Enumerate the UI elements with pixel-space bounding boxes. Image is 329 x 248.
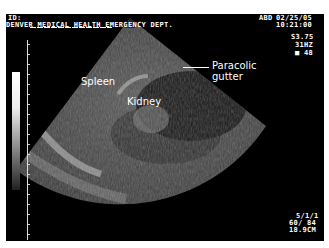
ultrasound-sector-image <box>6 14 324 241</box>
ruler-tick <box>28 64 30 65</box>
depth-ruler <box>27 40 28 240</box>
ruler-tick <box>28 174 30 175</box>
ruler-tick <box>28 184 30 185</box>
ruler-tick <box>28 164 30 165</box>
exam-preset: ABD <box>259 15 273 22</box>
ruler-tick <box>28 234 30 235</box>
ruler-tick <box>28 54 30 55</box>
ruler-tick <box>28 44 30 45</box>
ruler-tick <box>28 134 30 135</box>
header-underline <box>30 27 112 28</box>
ruler-tick <box>28 214 30 215</box>
gain-label: ■ 48 <box>295 50 313 57</box>
grayscale-bar <box>12 72 20 190</box>
ruler-tick <box>28 144 30 145</box>
ruler-tick <box>28 94 30 95</box>
kidney-label: Kidney <box>127 96 161 107</box>
ruler-tick <box>28 124 30 125</box>
ruler-tick <box>28 224 30 225</box>
spleen-label: Spleen <box>81 76 115 87</box>
ruler-tick <box>28 104 30 105</box>
paracolic-label-line2: gutter <box>212 71 243 82</box>
depth-label: 18.9CM <box>289 227 316 234</box>
ruler-tick <box>28 194 30 195</box>
ruler-tick <box>28 74 30 75</box>
probe-label: S3.75 <box>291 34 314 41</box>
ultrasound-display: ID: DENVER MEDICAL HEALTH EMERGENCY DEPT… <box>6 14 324 241</box>
ruler-tick <box>28 84 30 85</box>
paracolic-label-line1: Paracolic <box>212 60 257 71</box>
ruler-tick <box>28 204 30 205</box>
ruler-tick <box>28 114 30 115</box>
paracolic-pointer-line <box>183 67 209 68</box>
ruler-tick <box>28 154 30 155</box>
frequency-label: 31HZ <box>295 42 313 49</box>
exam-time: 10:21:00 <box>276 22 312 29</box>
